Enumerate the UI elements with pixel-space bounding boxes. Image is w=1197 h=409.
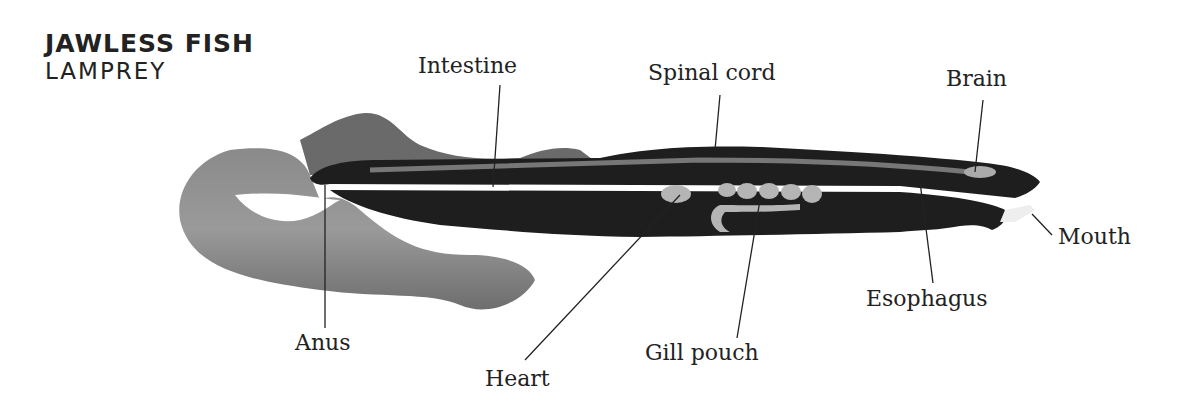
label-gill-pouch: Gill pouch xyxy=(645,340,759,365)
spinal-cord-leader xyxy=(715,95,720,150)
label-esophagus: Esophagus xyxy=(866,286,988,311)
label-intestine: Intestine xyxy=(418,53,517,78)
brain-leader xyxy=(975,100,983,172)
label-mouth: Mouth xyxy=(1058,224,1131,249)
mouth-leader xyxy=(1032,214,1052,235)
heart-organ xyxy=(661,185,691,203)
label-brain: Brain xyxy=(946,66,1007,91)
label-heart: Heart xyxy=(485,366,550,391)
brain-organ xyxy=(964,166,996,178)
label-anus: Anus xyxy=(295,330,351,355)
lamprey-illustration xyxy=(0,0,1197,409)
label-spinal-cord: Spinal cord xyxy=(648,60,776,85)
body xyxy=(310,147,1040,237)
